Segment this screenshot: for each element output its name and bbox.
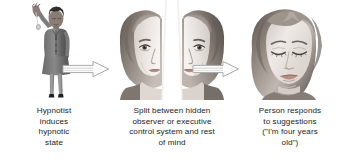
split-face-left-half xyxy=(120,10,162,100)
split-face-illustration xyxy=(108,0,236,100)
panel-hypnotist-caption: Hypnotist induces hypnotic state xyxy=(0,100,108,148)
panel-response: Person responds to suggestions ("I'm fou… xyxy=(236,0,344,167)
hypnosis-sequence-diagram: Hypnotist induces hypnotic state xyxy=(0,0,344,167)
whole-face-eyes-closed-image xyxy=(236,0,344,100)
panel-row: Hypnotist induces hypnotic state xyxy=(0,0,344,167)
panel-split-mind: Split between hidden observer or executi… xyxy=(108,0,236,167)
hypnotist-illustration xyxy=(0,0,108,100)
split-face-image xyxy=(108,0,236,100)
split-face-right-half xyxy=(182,10,224,100)
panel-response-caption: Person responds to suggestions ("I'm fou… xyxy=(236,100,344,148)
hypnotist-with-pendulum-image xyxy=(0,0,108,100)
panel-split-mind-caption: Split between hidden observer or executi… xyxy=(108,100,236,148)
calm-face-illustration xyxy=(236,0,344,100)
panel-hypnotist: Hypnotist induces hypnotic state xyxy=(0,0,108,167)
